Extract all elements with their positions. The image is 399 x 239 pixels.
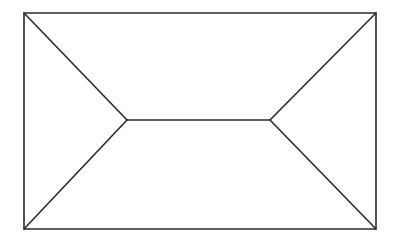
hip-line-bottom-right (270, 120, 376, 229)
hip-line-top-left (24, 13, 127, 120)
hip-line-bottom-left (24, 120, 127, 229)
hip-roof-diagram (0, 0, 399, 239)
hip-line-top-right (270, 13, 376, 120)
roof-outline (24, 13, 376, 229)
diagram-canvas (0, 0, 399, 239)
